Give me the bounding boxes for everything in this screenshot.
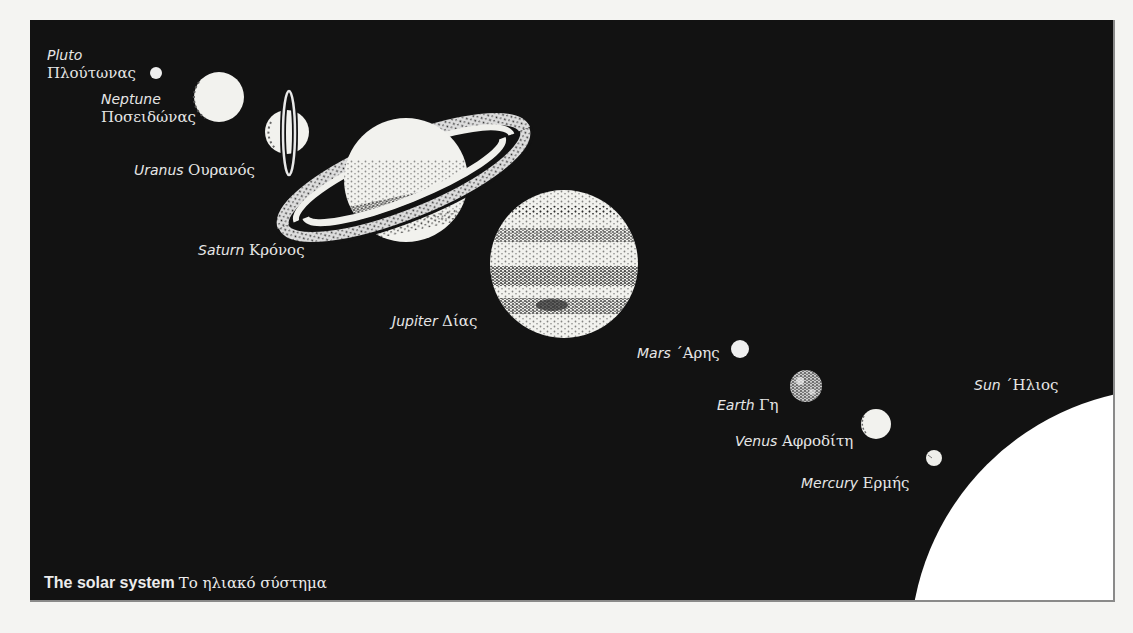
label-pluto-en: Pluto bbox=[47, 47, 82, 63]
label-neptune-en: Neptune bbox=[101, 91, 161, 107]
label-sun: Sun ΄Ηλιος bbox=[974, 376, 1059, 394]
label-mercury-gr: Ερμής bbox=[863, 474, 910, 492]
planet-earth bbox=[790, 370, 822, 402]
caption-greek: Το ηλιακό σύστημα bbox=[179, 574, 327, 592]
label-mercury: Mercury Ερμής bbox=[801, 474, 909, 492]
planet-pluto bbox=[150, 67, 162, 79]
planet-mars bbox=[731, 340, 749, 358]
label-neptune: Neptune Ποσειδώνας bbox=[101, 90, 196, 126]
label-jupiter: Jupiter Δίας bbox=[392, 312, 477, 330]
planet-neptune bbox=[194, 72, 244, 122]
planet-mercury bbox=[926, 450, 942, 466]
label-mars-gr: ΄Αρης bbox=[675, 344, 720, 362]
label-uranus: Uranus Ουρανός bbox=[134, 161, 255, 179]
label-earth-en: Earth bbox=[717, 397, 755, 413]
planet-venus bbox=[861, 409, 891, 439]
label-saturn-en: Saturn bbox=[198, 242, 244, 258]
planet-jupiter bbox=[480, 190, 650, 340]
solar-system-figure: Pluto Πλούτωνας Neptune Ποσειδώνας Uranu… bbox=[30, 20, 1115, 602]
label-earth-gr: Γη bbox=[759, 396, 778, 414]
label-sun-en: Sun bbox=[974, 377, 1001, 393]
label-jupiter-gr: Δίας bbox=[442, 312, 477, 330]
label-saturn-gr: Κρόνος bbox=[249, 241, 305, 259]
label-uranus-en: Uranus bbox=[134, 162, 184, 178]
label-venus-en: Venus bbox=[735, 433, 777, 449]
label-mars: Mars ΄Αρης bbox=[637, 344, 720, 362]
label-earth: Earth Γη bbox=[717, 396, 778, 414]
label-neptune-gr: Ποσειδώνας bbox=[101, 108, 196, 126]
label-mars-en: Mars bbox=[637, 345, 671, 361]
planet-uranus bbox=[265, 91, 309, 175]
caption-english: The solar system bbox=[44, 574, 175, 591]
label-venus-gr: Αφροδίτη bbox=[782, 432, 853, 450]
label-saturn: Saturn Κρόνος bbox=[198, 241, 305, 259]
label-mercury-en: Mercury bbox=[801, 475, 858, 491]
label-sun-gr: ΄Ηλιος bbox=[1005, 376, 1058, 394]
label-jupiter-en: Jupiter bbox=[392, 313, 438, 329]
label-uranus-gr: Ουρανός bbox=[188, 161, 255, 179]
figure-caption: The solar system Το ηλιακό σύστημα bbox=[44, 574, 327, 592]
label-pluto-gr: Πλούτωνας bbox=[47, 64, 136, 82]
label-venus: Venus Αφροδίτη bbox=[735, 432, 853, 450]
label-pluto: Pluto Πλούτωνας bbox=[47, 46, 136, 82]
sun bbox=[910, 388, 1115, 602]
